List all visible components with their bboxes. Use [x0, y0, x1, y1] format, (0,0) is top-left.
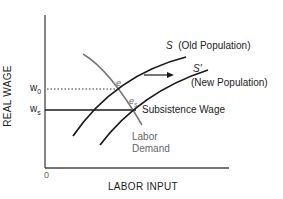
labor-demand-curve — [83, 54, 142, 125]
origin-label: 0 — [44, 170, 49, 181]
labor-demand-label-line1: Labor — [132, 131, 158, 142]
labor-demand-label-line2: Demand — [132, 143, 170, 154]
w0-label: w0 — [30, 82, 41, 97]
labor-market-diagram — [0, 0, 283, 199]
supply-new-symbol: S' — [193, 63, 202, 74]
y-axis-label: REAL WAGE — [2, 65, 13, 126]
subsistence-wage-label: Subsistence Wage — [142, 104, 225, 115]
x-axis-label: LABOR INPUT — [108, 181, 178, 192]
equilibrium-e-label: e — [116, 78, 121, 89]
ws-label: ws — [30, 103, 41, 118]
arrow-head-icon — [167, 72, 174, 78]
equilibrium-es-label: es — [129, 96, 138, 110]
supply-old-label: S (Old Population) — [166, 40, 251, 51]
supply-new-label: (New Population) — [191, 77, 268, 88]
